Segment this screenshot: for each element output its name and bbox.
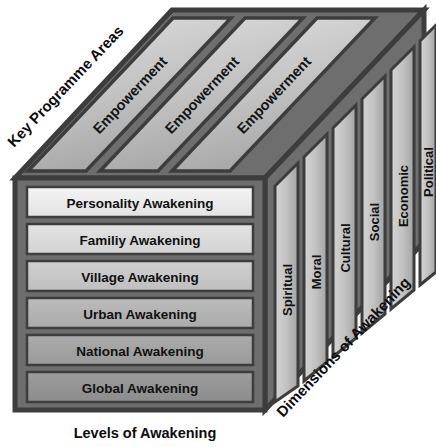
- dimension-label-spiritual: Spiritual: [280, 264, 295, 316]
- level-label-family: Familiy Awakening: [80, 233, 201, 248]
- axis-label-levels-of-awakening: Levels of Awakening: [74, 425, 217, 441]
- level-label-personality: Personality Awakening: [66, 196, 213, 211]
- level-label-global: Global Awakening: [82, 381, 198, 396]
- dimension-label-social: Social: [367, 203, 382, 241]
- diagram-canvas: Empowerment Empowerment Empowerment Spir…: [0, 0, 436, 447]
- level-label-national: National Awakening: [76, 344, 204, 359]
- dimension-label-political: Political: [421, 147, 436, 197]
- dimension-label-cultural: Cultural: [338, 223, 353, 272]
- level-label-village: Village Awakening: [81, 270, 199, 285]
- three-dimensional-box-diagram: Empowerment Empowerment Empowerment Spir…: [0, 0, 436, 447]
- dimension-label-economic: Economic: [396, 165, 411, 227]
- dimension-label-moral: Moral: [309, 255, 324, 290]
- level-label-urban: Urban Awakening: [83, 307, 196, 322]
- front-face-group: Personality Awakening Familiy Awakening …: [15, 178, 265, 410]
